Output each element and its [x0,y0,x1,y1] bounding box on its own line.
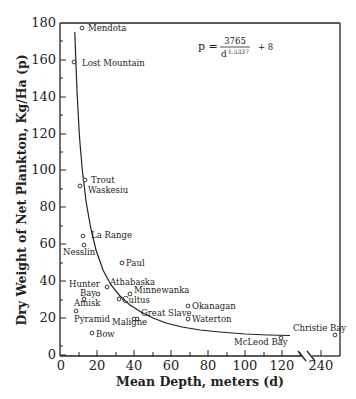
equation-numerator: 3765 [224,36,246,46]
equation-denominator-exponent: 1.5337 [228,48,249,55]
chart: 0 20 40 60 80 100 120 140 160 180 0 20 4… [0,0,356,399]
label-waskesiu: Waskesiu [88,185,129,195]
equation-lhs: p = [198,40,218,53]
label-mendota: Mendota [88,23,126,33]
label-cultus: Cultus [122,295,150,305]
label-bay: Bay [80,288,96,298]
y-tick-label: 100 [31,162,56,177]
x-axis-title: Mean Depth, meters (d) [116,374,284,389]
point-trout [83,178,87,182]
y-tick-label: 40 [39,273,56,288]
equation-denominator-base: d [221,49,227,59]
point-mendota [80,26,84,30]
label-great-slave: Great Slave [141,308,192,318]
y-axis-tick-labels: 0 20 40 60 80 100 120 140 160 180 [31,15,56,362]
y-axis-title: Dry Weight of Net Plankton, Kg/Ha (p) [14,54,29,325]
point-waskesiu [78,184,82,188]
x-axis-ticks [79,350,321,356]
label-minnewanka: Minnewanka [134,285,189,295]
point-labels: Mendota Lost Mountain Trout Waskesiu La … [63,23,346,347]
point-pyramid [74,309,78,313]
x-tick-label: 80 [200,358,217,373]
label-mcleod-bay: McLeod Bay [234,337,288,347]
label-maligne: Maligne [112,317,147,327]
y-tick-label: 20 [39,310,56,325]
point-hunter-bay [96,292,100,296]
y-tick-label: 0 [48,347,56,362]
equation-constant: + 8 [258,42,273,52]
label-bow: Bow [96,329,115,339]
label-amisk: Amisk [73,298,101,308]
x-tick-label: 0 [57,358,65,373]
point-bow [90,331,94,335]
y-tick-label: 120 [31,126,56,141]
x-tick-label: 60 [163,358,180,373]
x-tick-label: 240 [309,358,334,373]
label-paul: Paul [126,258,145,268]
x-tick-label: 40 [126,358,143,373]
label-christie-bay: Christie Bay [293,323,346,333]
x-tick-label: 120 [270,358,295,373]
y-tick-label: 60 [39,236,56,251]
label-pyramid: Pyramid [74,314,110,324]
point-christie-bay [333,333,337,337]
x-tick-label: 100 [233,358,258,373]
label-okanagan: Okanagan [192,301,236,311]
y-tick-label: 160 [31,52,56,67]
y-axis-ticks [60,41,66,355]
label-waterton: Waterton [192,314,232,324]
label-nesslin: Nesslin [63,247,96,257]
label-la-range: La Range [91,230,132,240]
y-tick-label: 180 [31,15,56,30]
x-tick-label: 20 [89,358,106,373]
label-trout: Trout [91,175,115,185]
point-lost-mountain [72,60,76,64]
point-la-range [81,234,85,238]
x-axis-tick-labels: 0 20 40 60 80 100 120 240 [57,358,334,373]
label-lost-mountain: Lost Mountain [82,58,145,68]
point-athabaska [105,285,109,289]
y-tick-label: 140 [31,89,56,104]
point-cultus [117,297,121,301]
equation-annotation: p = 3765 d 1.5337 + 8 [198,36,273,59]
point-paul [120,261,124,265]
y-tick-label: 80 [39,199,56,214]
